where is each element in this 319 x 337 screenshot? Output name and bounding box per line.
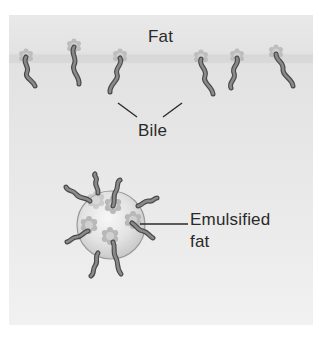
bile-pointer-line-left [118, 103, 137, 117]
emulsified-fat-label-line2: fat [190, 231, 270, 253]
bile-molecule [269, 44, 293, 86]
bile-molecule [19, 48, 35, 86]
bile-emulsification-diagram [0, 0, 319, 337]
bile-pointer-line-right [163, 103, 182, 117]
bile-molecule [110, 48, 127, 92]
emulsified-fat-label-line1: Emulsified [190, 209, 270, 231]
fat-layer-band [9, 55, 313, 63]
fat-label: Fat [148, 27, 173, 47]
bile-molecule [230, 48, 244, 88]
emulsified-fat-label: Emulsified fat [190, 209, 270, 253]
bile-label: Bile [138, 121, 167, 141]
